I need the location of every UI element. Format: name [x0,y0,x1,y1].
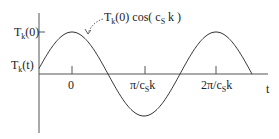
x-tick-label-pi: π/cSk [130,79,155,94]
y-label-function: Tk(t) [11,59,34,74]
x-axis-label: t [266,83,269,95]
y-label-peak: Tk(0) [14,26,39,41]
curve-annotation: Tk(0) cos( cS k ) [104,11,181,26]
arrow-head-icon [85,29,91,34]
x-tick-label-2pi: 2π/cSk [201,79,232,94]
cosine-diagram: Tk(0) Tk(t) 0 π/cSk 2π/cSk t Tk(0) cos( … [0,0,279,139]
x-tick-label-0: 0 [68,79,74,91]
